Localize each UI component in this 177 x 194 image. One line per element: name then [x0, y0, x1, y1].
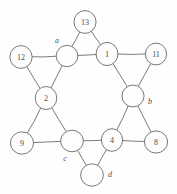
graph-edge — [113, 63, 127, 86]
graph-edge — [27, 66, 41, 88]
graph-node-b[interactable]: b — [122, 85, 152, 107]
node-label: 2 — [44, 94, 48, 103]
node-label: d — [108, 170, 113, 179]
graph-edge — [72, 32, 80, 47]
graph-edge — [123, 141, 145, 142]
graph-node-12[interactable]: 12 — [10, 46, 32, 69]
graph-node-d[interactable]: d — [81, 164, 113, 186]
node-label: 4 — [110, 136, 114, 145]
graph-edge — [51, 66, 62, 88]
graph-node-9[interactable]: 9 — [10, 132, 33, 154]
graph-edge — [138, 64, 150, 87]
graph-edge — [52, 107, 67, 131]
graph-node-13[interactable]: 13 — [74, 11, 96, 34]
node-label: c — [63, 154, 67, 163]
graph-node-1[interactable]: 1 — [96, 42, 118, 65]
node-label: 1 — [105, 50, 109, 59]
node-label: 11 — [152, 50, 160, 59]
graph-node-4[interactable]: 4 — [101, 129, 122, 152]
graph-edge — [33, 141, 61, 142]
graph-node-8[interactable]: 8 — [144, 131, 167, 153]
graph-edge — [78, 150, 87, 165]
graph-edge — [91, 31, 101, 45]
graph-edge — [138, 106, 151, 132]
graph-edge — [32, 56, 56, 57]
node-layer: 13a112112b9c48d — [10, 11, 168, 187]
node-circle — [56, 45, 78, 66]
graph-edge — [97, 150, 106, 166]
graph-node-c[interactable]: c — [61, 130, 84, 162]
node-circle — [61, 130, 84, 152]
graph-node-2[interactable]: 2 — [35, 86, 57, 109]
node-label: 12 — [17, 53, 25, 62]
graph-edge — [78, 55, 96, 56]
node-label: b — [148, 97, 152, 106]
node-label: 9 — [20, 139, 24, 148]
node-label: 8 — [154, 138, 158, 147]
node-circle — [122, 85, 144, 107]
node-label: a — [55, 36, 59, 45]
node-circle — [81, 164, 104, 186]
graph-edge — [27, 108, 41, 134]
graph-edge — [117, 106, 129, 130]
hexagram-graph: 13a112112b9c48d — [0, 0, 177, 194]
graph-node-11[interactable]: 11 — [145, 43, 166, 65]
graph-node-a[interactable]: a — [55, 36, 78, 67]
node-label: 13 — [81, 18, 89, 27]
diagram-canvas: 13a112112b9c48d — [0, 0, 177, 194]
